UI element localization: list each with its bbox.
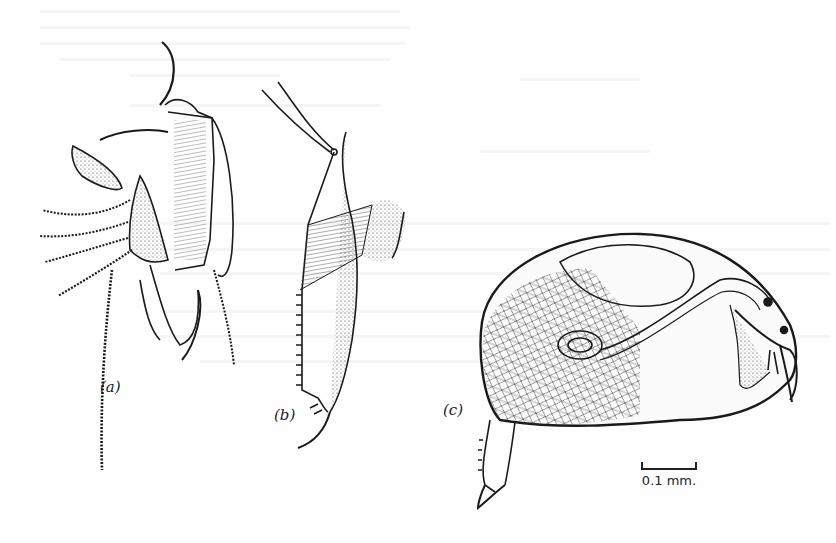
panel-label-a: (a) bbox=[100, 378, 121, 396]
drawing-b bbox=[262, 82, 405, 448]
scale-bar-label: 0.1 mm. bbox=[638, 473, 700, 488]
figure-drawings bbox=[0, 0, 836, 543]
panel-label-c: (c) bbox=[443, 401, 463, 419]
scanned-page: (a) (b) (c) 0.1 mm. bbox=[0, 0, 836, 543]
panel-label-b: (b) bbox=[274, 406, 295, 424]
drawing-a bbox=[40, 42, 234, 470]
scale-bar: 0.1 mm. bbox=[638, 462, 700, 488]
scale-bar-line bbox=[641, 462, 697, 470]
